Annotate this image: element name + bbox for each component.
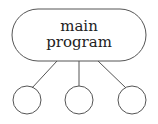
hierarchy-diagram: main program <box>0 0 158 124</box>
edge-3 <box>98 61 126 88</box>
child-node-3 <box>118 86 146 114</box>
child-node-1 <box>13 86 41 114</box>
child-node-2 <box>65 86 93 114</box>
root-label-line-2: program <box>46 33 112 51</box>
edge-1 <box>32 61 57 88</box>
